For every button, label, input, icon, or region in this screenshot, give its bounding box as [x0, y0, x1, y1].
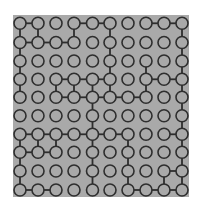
grid-node[interactable]: [14, 128, 26, 140]
grid-node[interactable]: [158, 91, 170, 103]
grid-node[interactable]: [14, 55, 26, 67]
grid-node[interactable]: [158, 73, 170, 85]
grid-node[interactable]: [122, 73, 134, 85]
grid-node[interactable]: [176, 37, 188, 49]
grid-node[interactable]: [140, 55, 152, 67]
grid-node[interactable]: [32, 165, 44, 177]
grid-node[interactable]: [50, 37, 62, 49]
grid-node[interactable]: [140, 165, 152, 177]
grid-node[interactable]: [122, 128, 134, 140]
grid-node[interactable]: [140, 37, 152, 49]
grid-node[interactable]: [32, 146, 44, 158]
grid-node[interactable]: [50, 73, 62, 85]
grid-node[interactable]: [14, 17, 26, 29]
grid-node[interactable]: [122, 91, 134, 103]
grid-node[interactable]: [68, 128, 80, 140]
grid-node[interactable]: [104, 146, 116, 158]
grid-node[interactable]: [104, 165, 116, 177]
grid-node[interactable]: [87, 165, 99, 177]
grid-node[interactable]: [68, 184, 80, 196]
grid-node[interactable]: [50, 128, 62, 140]
grid-node[interactable]: [14, 110, 26, 122]
grid-node[interactable]: [32, 128, 44, 140]
grid-node[interactable]: [68, 165, 80, 177]
grid-node[interactable]: [140, 128, 152, 140]
grid-node[interactable]: [32, 73, 44, 85]
grid-node[interactable]: [122, 37, 134, 49]
grid-node[interactable]: [104, 73, 116, 85]
grid-node[interactable]: [176, 146, 188, 158]
grid-node[interactable]: [158, 37, 170, 49]
grid-node[interactable]: [176, 128, 188, 140]
grid-node[interactable]: [158, 128, 170, 140]
grid-node[interactable]: [87, 146, 99, 158]
grid-node[interactable]: [176, 91, 188, 103]
grid-node[interactable]: [176, 73, 188, 85]
grid-node[interactable]: [87, 91, 99, 103]
grid-node[interactable]: [158, 17, 170, 29]
grid-node[interactable]: [50, 91, 62, 103]
grid-node[interactable]: [122, 110, 134, 122]
grid-node[interactable]: [32, 55, 44, 67]
grid-node[interactable]: [87, 184, 99, 196]
grid-node[interactable]: [68, 37, 80, 49]
grid-node[interactable]: [32, 37, 44, 49]
grid-node[interactable]: [50, 17, 62, 29]
grid-node[interactable]: [122, 146, 134, 158]
grid-node[interactable]: [14, 73, 26, 85]
grid-node[interactable]: [122, 17, 134, 29]
grid-node[interactable]: [87, 73, 99, 85]
grid-node[interactable]: [140, 17, 152, 29]
grid-node[interactable]: [68, 110, 80, 122]
grid-node[interactable]: [14, 184, 26, 196]
grid-node[interactable]: [104, 184, 116, 196]
grid-node[interactable]: [68, 146, 80, 158]
grid-node[interactable]: [68, 55, 80, 67]
grid-node[interactable]: [140, 184, 152, 196]
grid-node[interactable]: [104, 128, 116, 140]
grid-node[interactable]: [158, 165, 170, 177]
grid-node[interactable]: [14, 146, 26, 158]
grid-node[interactable]: [158, 55, 170, 67]
grid-node[interactable]: [50, 146, 62, 158]
grid-node[interactable]: [158, 110, 170, 122]
grid-node[interactable]: [104, 91, 116, 103]
grid-node[interactable]: [32, 17, 44, 29]
grid-node[interactable]: [68, 73, 80, 85]
grid-node[interactable]: [32, 91, 44, 103]
grid-node[interactable]: [50, 110, 62, 122]
grid-node[interactable]: [104, 55, 116, 67]
grid-node[interactable]: [50, 165, 62, 177]
grid-node[interactable]: [14, 91, 26, 103]
grid-node[interactable]: [14, 37, 26, 49]
grid-node[interactable]: [32, 110, 44, 122]
grid-node[interactable]: [176, 165, 188, 177]
grid-node[interactable]: [158, 184, 170, 196]
grid-node[interactable]: [176, 17, 188, 29]
grid-node[interactable]: [140, 91, 152, 103]
grid-node[interactable]: [104, 17, 116, 29]
grid-node[interactable]: [32, 184, 44, 196]
grid-node[interactable]: [176, 110, 188, 122]
grid-node[interactable]: [176, 184, 188, 196]
grid-node[interactable]: [87, 110, 99, 122]
grid-node[interactable]: [122, 184, 134, 196]
grid-node[interactable]: [68, 17, 80, 29]
grid-node[interactable]: [140, 146, 152, 158]
grid-node[interactable]: [87, 17, 99, 29]
grid-node[interactable]: [104, 110, 116, 122]
grid-node[interactable]: [50, 55, 62, 67]
grid-node[interactable]: [87, 55, 99, 67]
grid-node[interactable]: [158, 146, 170, 158]
grid-node[interactable]: [104, 37, 116, 49]
grid-node[interactable]: [176, 55, 188, 67]
grid-node[interactable]: [50, 184, 62, 196]
grid-node[interactable]: [140, 73, 152, 85]
grid-node[interactable]: [140, 110, 152, 122]
grid-node[interactable]: [68, 91, 80, 103]
grid-node[interactable]: [87, 37, 99, 49]
grid-node[interactable]: [122, 165, 134, 177]
grid-node[interactable]: [122, 55, 134, 67]
grid-node[interactable]: [87, 128, 99, 140]
grid-node[interactable]: [14, 165, 26, 177]
